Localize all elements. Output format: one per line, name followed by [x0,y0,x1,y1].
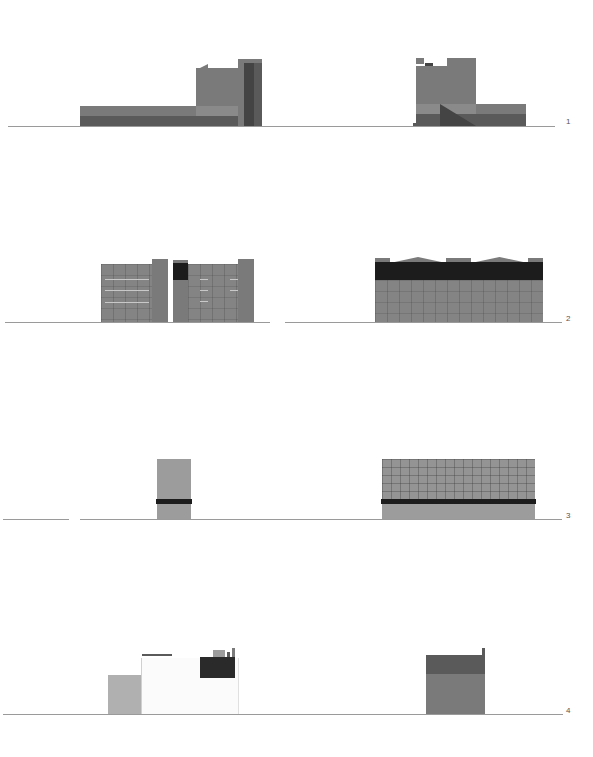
ground-line [8,126,555,127]
ground-line [3,714,563,715]
ground-line [5,322,270,323]
row-number-label: 3 [566,511,570,520]
row-number-label: 4 [566,706,570,715]
ground-line [3,519,69,520]
ground-line [80,519,562,520]
row-number-label: 2 [566,314,570,323]
row-number-label: 1 [566,117,570,126]
ground-line [285,322,562,323]
